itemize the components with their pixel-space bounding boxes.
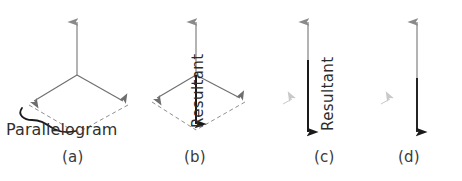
panel-b-resultant-label: Resultant [189, 53, 207, 128]
physics-vector-diagram: Parallelogram Resultant Resultant (a) (b… [0, 0, 462, 181]
panel-caption-b: (b) [184, 148, 206, 166]
parallelogram-annotation-label: Parallelogram [6, 120, 118, 139]
panel-d-graphics [381, 22, 417, 132]
panel-d-ghost-arrow-artifact [381, 99, 390, 104]
panel-caption-a: (a) [62, 148, 84, 166]
panel-a-right-component-vector [77, 75, 123, 101]
panel-c-ghost-arrow-artifact [283, 99, 292, 104]
panel-caption-d: (d) [398, 148, 420, 166]
panel-c-resultant-label: Resultant [319, 56, 337, 131]
panel-caption-c: (c) [314, 148, 335, 166]
panel-a-left-component-vector [34, 75, 77, 101]
panel-c-graphics [283, 22, 308, 132]
panel-a-graphics [20, 22, 128, 133]
